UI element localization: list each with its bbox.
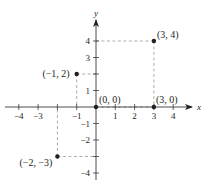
- coordinate-plane: xy −4−3−11234−4−2−1134 (−1, 2)(3, 4)(0, …: [0, 0, 210, 186]
- y-tick-label: 1: [86, 86, 91, 96]
- x-tick-label: −3: [33, 111, 43, 121]
- y-tick-label: −1: [80, 119, 90, 129]
- point-label: (3, 0): [156, 94, 178, 106]
- point-label: (−2, −3): [19, 157, 52, 169]
- data-point: [152, 39, 156, 43]
- point-label: (−1, 2): [42, 68, 69, 80]
- y-tick-label: 3: [86, 53, 91, 63]
- x-tick-label: 3: [152, 111, 157, 121]
- data-point: [55, 154, 59, 158]
- y-axis-label: y: [93, 8, 98, 18]
- point-label: (0, 0): [99, 94, 121, 106]
- data-points: (−1, 2)(3, 4)(0, 0)(3, 0)(−2, −3): [19, 29, 178, 169]
- data-point: [75, 72, 79, 76]
- point-label: (3, 4): [157, 29, 179, 41]
- x-tick-label: 4: [171, 111, 176, 121]
- x-tick-label: 2: [132, 111, 137, 121]
- x-tick-label: −4: [14, 111, 24, 121]
- x-axis-label: x: [196, 102, 201, 112]
- x-tick-label: 1: [113, 111, 118, 121]
- y-tick-label: −2: [80, 135, 90, 145]
- y-tick-label: 4: [86, 36, 91, 46]
- data-point: [94, 105, 98, 109]
- data-point: [152, 105, 156, 109]
- y-tick-label: −4: [80, 168, 90, 178]
